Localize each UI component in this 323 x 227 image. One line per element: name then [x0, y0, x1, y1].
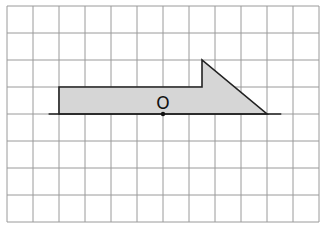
point-o-label: O [156, 93, 169, 113]
grid-diagram: O [0, 0, 323, 227]
